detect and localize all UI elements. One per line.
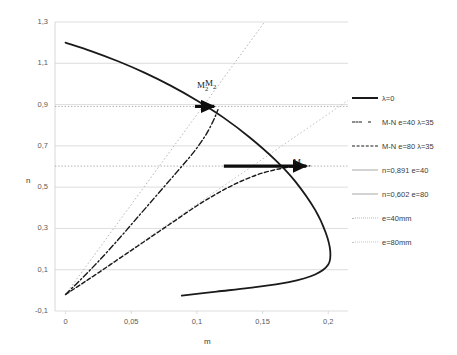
- x-axis-tick: 0,05: [111, 317, 151, 326]
- legend-swatch-3: [352, 141, 378, 151]
- legend-line: [352, 97, 378, 99]
- m2-label-text: M: [197, 80, 205, 90]
- legend-item[interactable]: M-N e=40 λ=35: [352, 110, 457, 134]
- legend-label: M-N e=80 λ=35: [382, 142, 434, 151]
- legend-item[interactable]: λ=0: [352, 86, 457, 110]
- y-axis-tick: 1,1: [12, 58, 48, 67]
- legend-line: [352, 146, 378, 147]
- legend-line: [352, 218, 378, 219]
- y-axis-tick: 1,3: [12, 17, 48, 26]
- legend-swatch-5: [352, 189, 378, 199]
- legend-label: λ=0: [382, 94, 394, 103]
- x-axis-tick: 0: [46, 317, 86, 326]
- y-axis-tick: 0,1: [12, 265, 48, 274]
- m2-label-subscript: 2: [301, 162, 304, 169]
- legend-line: [352, 170, 378, 171]
- moment-arrows: [195, 106, 306, 166]
- legend-item[interactable]: n=0,602 e=80: [352, 182, 457, 206]
- chart-legend: λ=0M-N e=40 λ=35M-N e=80 λ=35n=0,891 e=4…: [352, 86, 457, 254]
- m2-label: M2: [293, 157, 304, 169]
- legend-line: [352, 194, 378, 195]
- legend-item[interactable]: M-N e=80 λ=35: [352, 134, 457, 158]
- legend-swatch-2: [352, 117, 378, 127]
- legend-dot: [368, 122, 371, 123]
- x-axis-tick: 0,1: [177, 317, 217, 326]
- y-axis-tick: 0,7: [12, 141, 48, 150]
- m2-label-text: M: [293, 157, 301, 167]
- x-axis-tick: 0,2: [308, 317, 348, 326]
- y-axis-title: n: [26, 176, 30, 185]
- m2-label-subscript: 2: [213, 83, 216, 90]
- chart-container: -0,10,10,30,50,70,91,11,3 00,050,10,150,…: [0, 0, 457, 355]
- legend-swatch-6: [352, 213, 378, 223]
- m2-label: M2: [205, 78, 216, 90]
- legend-swatch-7: [352, 237, 378, 247]
- legend-label: e=80mm: [382, 238, 411, 247]
- x-axis-title: m: [204, 337, 211, 346]
- y-axis-tick: -0,1: [12, 306, 48, 315]
- legend-item[interactable]: n=0,891 e=40: [352, 158, 457, 182]
- legend-label: n=0,891 e=40: [382, 166, 428, 175]
- x-axis-tick: 0,15: [243, 317, 283, 326]
- eccentricity-rays: [66, 22, 348, 294]
- y-axis-tick: 0,9: [12, 100, 48, 109]
- legend-label: e=40mm: [382, 214, 411, 223]
- legend-line: [352, 122, 362, 123]
- m2-label-text: M: [205, 78, 213, 88]
- legend-label: M-N e=40 λ=35: [382, 118, 434, 127]
- legend-item[interactable]: e=80mm: [352, 230, 457, 254]
- legend-item[interactable]: e=40mm: [352, 206, 457, 230]
- legend-label: n=0,602 e=80: [382, 190, 428, 199]
- legend-swatch-1: [352, 93, 378, 103]
- legend-swatch-4: [352, 165, 378, 175]
- legend-line: [352, 242, 378, 243]
- y-axis-tick: 0,3: [12, 223, 48, 232]
